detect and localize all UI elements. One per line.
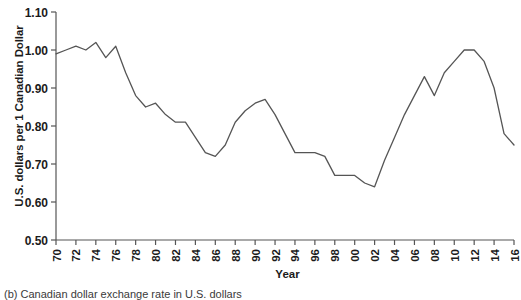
x-axis-tick-label: 1988 <box>230 248 242 262</box>
y-axis-tick-label: 0.50 <box>25 234 49 248</box>
y-axis-tick-label: 0.90 <box>25 82 49 96</box>
y-axis-tick-label: 0.60 <box>25 196 49 210</box>
x-axis-label-text: Year <box>221 268 299 280</box>
x-axis-tick-label: 2000 <box>349 249 361 262</box>
x-axis-tick-label: 2006 <box>409 249 421 262</box>
figure-caption: (b) Canadian dollar exchange rate in U.S… <box>4 288 521 300</box>
x-axis-tick-label: 2008 <box>429 248 441 262</box>
x-axis-tick-label: 2012 <box>469 249 481 262</box>
y-axis-tick-label: 1.00 <box>25 44 49 58</box>
x-axis-tick-label: 1990 <box>250 249 262 262</box>
x-axis-tick-label: 1996 <box>309 249 321 262</box>
figure-container: U.S. dollars per 1 Canadian Dollar 0.500… <box>0 0 521 300</box>
x-axis-tick-label: 1972 <box>70 249 82 262</box>
x-axis-tick-label: 1970 <box>51 249 63 262</box>
y-axis-tick-label: 0.80 <box>25 120 49 134</box>
x-axis-tick-label: 2016 <box>509 249 521 262</box>
x-axis-tick-label: 1982 <box>170 249 182 262</box>
x-axis-tick-label: 2002 <box>369 249 381 262</box>
x-axis-tick-label: 1992 <box>270 249 282 262</box>
x-axis-tick-label: 2004 <box>389 248 401 262</box>
y-axis-tick-label: 0.70 <box>25 158 49 172</box>
x-axis-tick-label: 1994 <box>289 248 301 262</box>
x-axis-tick-label: 1980 <box>150 249 162 262</box>
x-axis-tick-label: 1986 <box>210 249 222 262</box>
y-axis-tick-label: 1.10 <box>25 6 49 20</box>
data-series-line <box>56 42 514 186</box>
x-axis-tick-label: 1984 <box>190 248 202 262</box>
x-axis-tick-label: 1978 <box>130 248 142 262</box>
x-axis-tick-label: 1976 <box>110 249 122 262</box>
x-axis-tick-label: 2010 <box>449 249 461 262</box>
x-axis-tick-label: 1998 <box>329 248 341 262</box>
x-axis-tick-label: 1974 <box>90 248 102 262</box>
line-chart-plot: 0.500.600.700.800.901.001.10197019721974… <box>0 0 521 262</box>
x-axis-label: Year <box>0 268 521 280</box>
x-axis-tick-label: 2014 <box>489 248 501 262</box>
y-axis-label: U.S. dollars per 1 Canadian Dollar <box>13 1 25 231</box>
